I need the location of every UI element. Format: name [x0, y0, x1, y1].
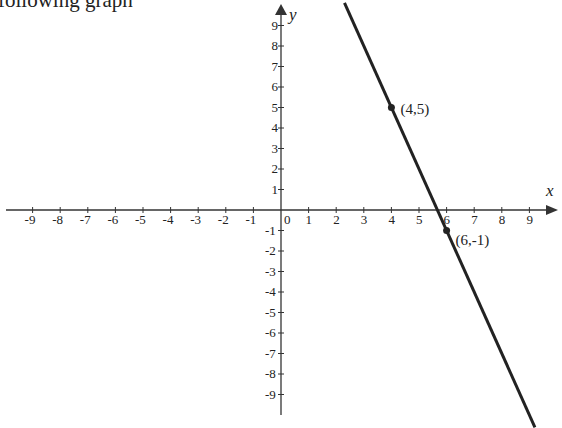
x-tick-label: -2 [218, 212, 229, 227]
y-tick-label: -8 [265, 366, 276, 381]
x-tick-label: -4 [163, 212, 174, 227]
x-tick-label: -5 [135, 212, 146, 227]
x-tick-label: 4 [388, 212, 395, 227]
y-axis-arrow-icon [275, 4, 287, 15]
y-tick-label: 8 [272, 38, 279, 53]
coordinate-plane: xy-9-8-7-6-5-4-3-2-10123456789987654321-… [0, 0, 562, 428]
y-tick-label: 9 [272, 18, 279, 33]
y-tick-label: -4 [265, 284, 276, 299]
x-tick-label: 0 [284, 212, 291, 227]
y-tick-label: 7 [272, 59, 279, 74]
x-axis-label: x [545, 181, 554, 200]
x-axis-arrow-icon [546, 205, 558, 215]
x-tick-label: -7 [80, 212, 91, 227]
point-label: (6,-1) [456, 232, 490, 249]
x-tick-label: 1 [306, 212, 313, 227]
point-label: (4,5) [400, 101, 429, 118]
y-tick-label: -3 [265, 264, 276, 279]
y-tick-label: 1 [272, 182, 279, 197]
y-tick-label: -6 [265, 325, 276, 340]
x-tick-label: 7 [471, 212, 478, 227]
graph-line [344, 3, 534, 427]
y-tick-label: 5 [272, 100, 279, 115]
x-tick-label: 2 [333, 212, 340, 227]
x-tick-label: -3 [190, 212, 201, 227]
y-tick-label: -1 [265, 223, 276, 238]
y-tick-label: -2 [265, 243, 276, 258]
y-tick-label: 4 [272, 120, 279, 135]
x-tick-label: -8 [52, 212, 63, 227]
x-tick-label: -1 [245, 212, 256, 227]
x-tick-label: 9 [526, 212, 533, 227]
x-tick-label: -9 [25, 212, 36, 227]
y-tick-label: -9 [265, 387, 276, 402]
y-tick-label: 2 [272, 161, 279, 176]
x-tick-label: -6 [107, 212, 118, 227]
data-point [388, 104, 395, 111]
y-tick-label: 3 [272, 141, 279, 156]
y-tick-label: 6 [272, 79, 279, 94]
y-tick-label: -5 [265, 305, 276, 320]
x-tick-label: 8 [499, 212, 506, 227]
y-axis-label: y [287, 5, 297, 24]
x-tick-label: 3 [361, 212, 368, 227]
y-tick-label: -7 [265, 346, 276, 361]
data-point [443, 227, 450, 234]
x-tick-label: 5 [416, 212, 423, 227]
